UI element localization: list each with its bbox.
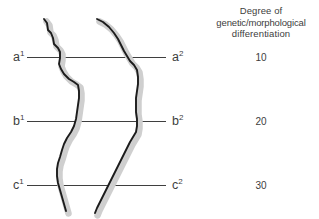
right-cline-shadow <box>98 22 141 216</box>
row-label-b2-superscript: 2 <box>179 113 183 122</box>
right-cline-group <box>95 19 141 216</box>
transect-line-b <box>27 121 166 122</box>
value-cell-a: 10 <box>205 53 317 63</box>
row-label-a2-superscript: 2 <box>179 49 183 58</box>
row-label-b1: b1 <box>13 115 24 128</box>
cline-diagram: Degree of genetic/morphological differen… <box>0 0 319 219</box>
row-label-a1: a1 <box>13 51 24 64</box>
row-label-c2: c2 <box>172 179 183 192</box>
row-label-c1-superscript: 1 <box>19 177 23 186</box>
row-label-a2: a2 <box>172 51 183 64</box>
row-label-b2-letter: b <box>172 114 179 128</box>
transect-line-c <box>27 185 166 186</box>
right-cline-stroke <box>95 19 138 213</box>
legend-header-line-3: differentiation <box>205 28 317 40</box>
row-label-c1: c1 <box>13 179 24 192</box>
transect-line-a <box>27 57 166 58</box>
row-label-b2: b2 <box>172 115 183 128</box>
legend-header: Degree of genetic/morphological differen… <box>205 5 317 40</box>
row-label-a2-letter: a <box>172 50 179 64</box>
value-cell-c: 30 <box>205 181 317 191</box>
value-cell-b: 20 <box>205 117 317 127</box>
row-label-b1-superscript: 1 <box>20 113 24 122</box>
legend-header-line-1: Degree of <box>205 5 317 17</box>
left-cline-stroke <box>44 19 79 211</box>
row-label-a1-letter: a <box>13 50 20 64</box>
row-label-b1-letter: b <box>13 114 20 128</box>
legend-header-line-2: genetic/morphological <box>205 17 317 29</box>
row-label-c2-superscript: 2 <box>178 177 182 186</box>
row-label-a1-superscript: 1 <box>20 49 24 58</box>
